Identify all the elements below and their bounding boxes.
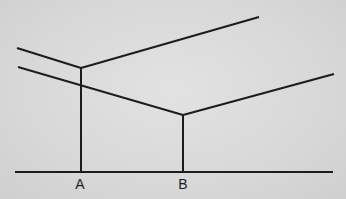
lower-line-right-segment [183,74,334,115]
upper-line-right-segment [81,17,259,68]
diagram-canvas: A B [0,0,346,199]
diagram-svg: A B [0,0,346,199]
lower-line-left-segment [18,67,183,115]
label-b: B [178,176,187,192]
label-a: A [75,176,85,192]
upper-line-left-segment [17,48,81,68]
